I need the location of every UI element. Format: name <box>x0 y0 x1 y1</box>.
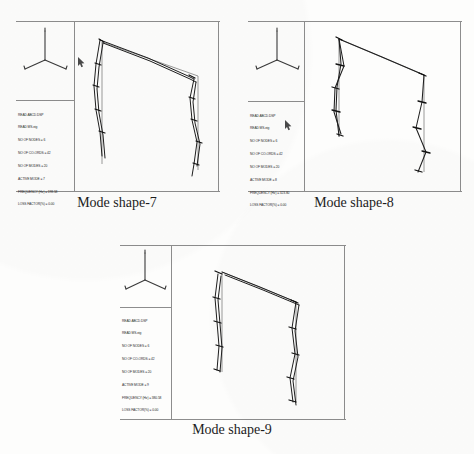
panel-top-rule <box>248 21 462 22</box>
panel-top-rule <box>120 245 346 246</box>
info-line: NO OF MODES = 20 <box>250 165 306 169</box>
info-line: NO OF CO-ORDS = 42 <box>250 152 306 156</box>
info-line: FREQUENCY (Hz) = 198.58 <box>18 190 74 194</box>
panel-divider-rule <box>74 21 75 191</box>
info-line: NO OF NODES = 6 <box>250 139 306 143</box>
panel-right-rule <box>344 245 345 419</box>
info-line: NO OF CO-ORDS = 42 <box>18 151 74 155</box>
info-line: READ MS.eig <box>122 331 174 335</box>
info-line: READ ABCD.DSP <box>18 113 74 117</box>
info-line: LOSS FACTOR(%) = 0.00 <box>122 408 174 412</box>
mouse-cursor-icon <box>284 120 293 131</box>
panel-mode-9: READ ABCD.DSP READ MS.eig NO OF NODES = … <box>118 244 346 442</box>
panel-right-rule <box>460 21 461 191</box>
info-line: NO OF MODES = 20 <box>122 370 174 374</box>
panel-mode-7: READ ABCD.DSP READ MS.eig NO OF NODES = … <box>14 20 220 216</box>
panel-caption: Mode shape-8 <box>246 195 462 211</box>
info-line: READ ABCD.DSP <box>250 114 306 118</box>
info-line: NO OF MODES = 20 <box>18 164 74 168</box>
info-line: NO OF CO-ORDS = 42 <box>122 357 174 361</box>
panel-top-rule <box>16 21 220 22</box>
info-line: ACTIVE MODE = 9 <box>122 383 174 387</box>
info-line: NO OF NODES = 6 <box>18 138 74 142</box>
info-top-rule <box>16 100 75 101</box>
info-top-rule <box>120 307 172 308</box>
panel-caption: Mode shape-9 <box>118 422 346 438</box>
info-top-rule <box>248 101 305 102</box>
panel-right-rule <box>218 21 219 191</box>
info-line: ACTIVE MODE = 8 <box>250 178 306 182</box>
panel-caption: Mode shape-7 <box>14 195 220 211</box>
mode-shape-plot <box>174 250 342 416</box>
mode-shape-plot <box>306 24 460 190</box>
info-line: ACTIVE MODE = 7 <box>18 177 74 181</box>
axis-triad-icon <box>19 26 71 72</box>
axis-triad-icon <box>251 26 303 72</box>
info-block: READ ABCD.DSP READ MS.eig NO OF NODES = … <box>122 310 174 421</box>
info-line: FREQUENCY (Hz) = 380.58 <box>122 396 174 400</box>
info-line: READ ABCD.DSP <box>122 319 174 323</box>
mode-shape-plot <box>76 24 218 190</box>
info-line: READ MS.eig <box>250 126 306 130</box>
info-line: NO OF NODES = 6 <box>122 344 174 348</box>
axis-triad-icon <box>120 248 170 292</box>
info-line: READ MS.eig <box>18 125 74 129</box>
panel-mode-8: READ ABCD.DSP READ MS.eig NO OF NODES = … <box>246 20 462 216</box>
figure-page: READ ABCD.DSP READ MS.eig NO OF NODES = … <box>0 0 474 454</box>
